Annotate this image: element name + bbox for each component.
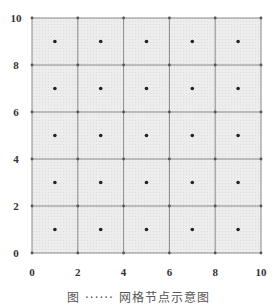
grid-node-marker <box>214 205 217 208</box>
grid-node-marker <box>122 252 125 255</box>
grid-node-marker <box>31 158 34 161</box>
x-tick-label: 8 <box>212 266 218 278</box>
x-tick-label: 0 <box>29 266 35 278</box>
grid-node-marker <box>31 64 34 67</box>
y-axis-ticks: 0246810 <box>11 12 23 259</box>
x-tick-label: 2 <box>75 266 81 278</box>
data-point <box>53 181 57 185</box>
grid-node-marker <box>31 111 34 114</box>
data-point <box>99 181 103 185</box>
x-tick-label: 4 <box>121 266 127 278</box>
grid-node-marker <box>260 158 263 161</box>
x-axis-ticks: 0246810 <box>29 266 267 278</box>
data-point <box>236 40 240 44</box>
grid-node-marker <box>214 158 217 161</box>
data-point <box>145 87 149 91</box>
grid-node-marker <box>168 111 171 114</box>
grid-node-marker <box>76 252 79 255</box>
grid-node-marker <box>214 111 217 114</box>
x-tick-label: 10 <box>256 266 268 278</box>
data-point <box>145 181 149 185</box>
grid-node-marker <box>260 205 263 208</box>
grid-node-marker <box>122 64 125 67</box>
grid-node-marker <box>76 111 79 114</box>
data-point <box>53 87 57 91</box>
figure-caption: 图 ······ 网格节点示意图 <box>0 288 277 305</box>
data-point <box>53 134 57 138</box>
grid-node-marker <box>214 64 217 67</box>
grid-node-marker <box>76 158 79 161</box>
grid-node-marker <box>168 17 171 20</box>
data-point <box>53 228 57 232</box>
data-point <box>53 40 57 44</box>
grid-node-marker <box>31 17 34 20</box>
data-point <box>145 134 149 138</box>
grid-node-marker <box>260 64 263 67</box>
data-point <box>99 228 103 232</box>
grid-node-marker <box>260 17 263 20</box>
grid-node-marker <box>31 205 34 208</box>
y-tick-label: 4 <box>13 153 19 165</box>
data-point <box>99 87 103 91</box>
grid-node-marker <box>168 252 171 255</box>
data-point <box>99 40 103 44</box>
x-tick-label: 6 <box>167 266 173 278</box>
y-tick-label: 0 <box>13 247 19 259</box>
grid-node-marker <box>168 205 171 208</box>
grid-node-marker <box>122 158 125 161</box>
data-point <box>191 40 195 44</box>
grid-node-marker <box>122 205 125 208</box>
data-point <box>191 228 195 232</box>
data-point <box>236 87 240 91</box>
data-point <box>145 40 149 44</box>
data-point <box>145 228 149 232</box>
data-point <box>99 134 103 138</box>
y-tick-label: 8 <box>13 59 19 71</box>
grid-node-marker <box>122 111 125 114</box>
grid-node-marker <box>260 252 263 255</box>
grid-node-marker <box>31 252 34 255</box>
grid-node-marker <box>76 17 79 20</box>
data-point <box>191 87 195 91</box>
grid-node-marker <box>214 252 217 255</box>
data-point <box>236 228 240 232</box>
data-point <box>191 134 195 138</box>
y-tick-label: 10 <box>11 12 23 24</box>
grid-node-marker <box>214 17 217 20</box>
grid-node-marker <box>260 111 263 114</box>
y-tick-label: 2 <box>13 200 19 212</box>
data-point <box>236 181 240 185</box>
grid-node-marker <box>76 205 79 208</box>
data-point <box>191 181 195 185</box>
grid-node-marker <box>76 64 79 67</box>
grid-node-marker <box>168 64 171 67</box>
data-point <box>236 134 240 138</box>
grid-node-marker <box>122 17 125 20</box>
y-tick-label: 6 <box>13 106 19 118</box>
grid-node-marker <box>168 158 171 161</box>
